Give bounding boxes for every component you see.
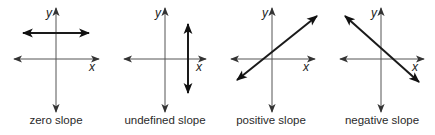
panel-undefined-slope: y x [124, 6, 206, 112]
y-axis-label: y [45, 6, 53, 20]
caption-positive-slope: positive slope [216, 114, 326, 126]
panel-positive-slope: y x [231, 6, 317, 112]
panel-zero-slope: y x [14, 6, 99, 112]
caption-undefined-slope: undefined slope [110, 114, 220, 126]
slope-types-diagram: y x y x y x y x zero slope undefin [0, 0, 435, 135]
y-axis-label: y [154, 6, 162, 20]
x-axis-label: x [302, 60, 310, 74]
x-axis-label: x [195, 60, 203, 74]
y-axis-label: y [370, 6, 378, 20]
negative-slope-line [345, 16, 419, 82]
caption-zero-slope: zero slope [1, 114, 111, 126]
panel-negative-slope: y x [340, 6, 424, 112]
x-axis-label: x [88, 60, 96, 74]
y-axis-label: y [261, 6, 269, 20]
x-axis-label: x [411, 60, 419, 74]
caption-negative-slope: negative slope [327, 114, 435, 126]
